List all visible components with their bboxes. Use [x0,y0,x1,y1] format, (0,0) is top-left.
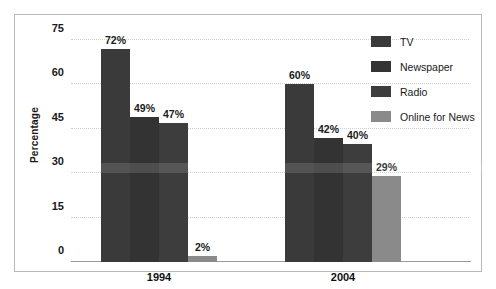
bar[interactable]: 60% [285,31,314,262]
chart-frame: Percentage 01530456075 72%49%47%2%199460… [14,14,482,272]
y-axis-tick-label: 30 [52,155,64,167]
bar-rect [130,117,159,262]
legend-item[interactable]: Online for News [371,104,496,129]
legend-swatch [371,111,391,122]
bar-rect [159,123,188,262]
bar-rect [285,84,314,262]
legend-item[interactable]: Newspaper [371,54,496,79]
bar-value-label: 40% [347,129,368,141]
bar[interactable]: 2% [188,31,217,262]
y-axis-title: Percentage [29,107,40,163]
bar-value-label: 47% [163,108,184,120]
bar-rect [314,138,343,262]
legend-label: Online for News [400,111,475,123]
bar-rect [343,144,372,262]
legend-item[interactable]: Radio [371,79,496,104]
y-axis-tick-label: 45 [52,111,64,123]
x-axis-category-label: 2004 [331,271,355,283]
bar-rect [101,49,130,262]
bar[interactable]: 40% [343,31,372,262]
legend-swatch [371,86,391,97]
x-axis-category-label: 1994 [147,271,171,283]
legend-label: Radio [400,86,427,98]
legend-item[interactable]: TV [371,29,496,54]
bar-rect [372,176,401,262]
y-axis-tick-label: 15 [52,200,64,212]
y-axis-tick-label: 75 [52,22,64,34]
bar-group-1994: 72%49%47%2%1994 [101,31,217,262]
legend-swatch [371,61,391,72]
bar-value-label: 72% [105,34,126,46]
y-axis-tick-label: 60 [52,66,64,78]
bar[interactable]: 42% [314,31,343,262]
bar[interactable]: 49% [130,31,159,262]
legend-label: TV [400,36,413,48]
bar[interactable]: 72% [101,31,130,262]
bar-value-label: 2% [195,241,210,253]
bar-value-label: 42% [318,123,339,135]
bar[interactable]: 47% [159,31,188,262]
chart-legend: TVNewspaperRadioOnline for News [371,29,496,129]
bar-value-label: 49% [134,102,155,114]
bar-rect [188,256,217,262]
bar-value-label: 60% [289,69,310,81]
legend-label: Newspaper [400,61,453,73]
bar-value-label: 29% [376,161,397,173]
legend-swatch [371,36,391,47]
y-axis-tick-label: 0 [58,244,64,256]
